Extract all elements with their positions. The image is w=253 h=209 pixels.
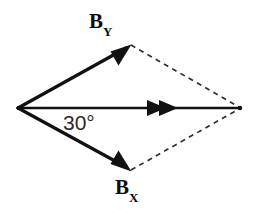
right-vertex-point: [238, 106, 242, 110]
lower-vector-label-subscript: X: [129, 190, 138, 205]
origin-vertex-point: [17, 107, 20, 110]
lower-vector-arrowhead: [111, 151, 132, 172]
lower-vector-label-base: B: [115, 175, 129, 199]
upper-vector-label: BY: [89, 11, 112, 35]
upper-vector-label-subscript: Y: [103, 24, 112, 39]
vector-diagram-figure: BY BX 30°: [0, 0, 253, 209]
upper-vector-shaft: [18, 48, 126, 108]
upper-vector-arrowhead: [111, 45, 132, 66]
angle-label: 30°: [63, 112, 95, 133]
resultant-arrowhead-second: [159, 100, 178, 116]
upper-vector-label-base: B: [89, 9, 103, 33]
dashed-line-lower: [131, 109, 239, 170]
lower-vector-label: BX: [115, 177, 138, 201]
dashed-line-upper: [131, 45, 239, 107]
